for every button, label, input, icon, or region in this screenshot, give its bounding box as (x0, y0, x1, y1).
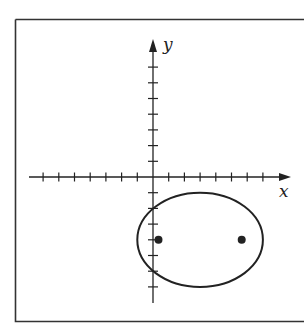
x-axis-label: x (279, 181, 289, 201)
y-axis-label: y (162, 34, 173, 54)
y-axis-arrow-icon (149, 39, 157, 52)
ellipse-foci (154, 236, 245, 244)
ellipse-diagram: x y (0, 0, 304, 333)
focus-point (238, 236, 246, 244)
x-axis-arrow-icon (279, 173, 291, 181)
focus-point (154, 236, 162, 244)
